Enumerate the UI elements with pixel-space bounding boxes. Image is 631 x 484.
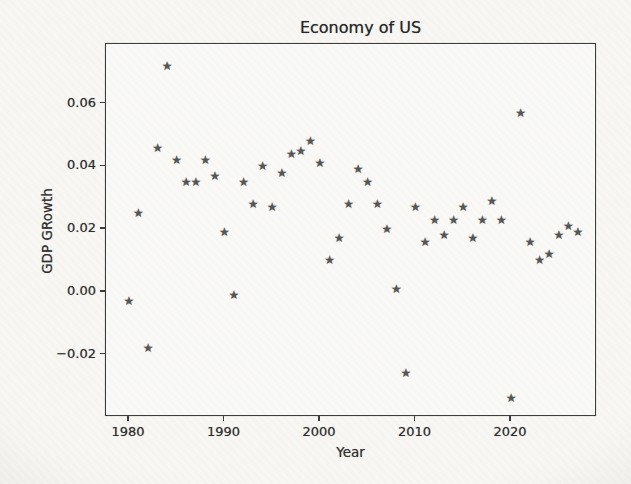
data-point-star: ★ [439, 229, 450, 241]
data-point-star: ★ [210, 170, 221, 182]
data-point-star: ★ [401, 367, 412, 379]
y-tick-label: 0.04 [34, 157, 96, 173]
data-point-star: ★ [420, 235, 431, 247]
data-point-star: ★ [143, 342, 154, 354]
data-point-star: ★ [334, 232, 345, 244]
data-point-star: ★ [362, 176, 373, 188]
x-axis-tick [509, 416, 511, 421]
data-point-star: ★ [496, 213, 507, 225]
data-point-star: ★ [248, 198, 259, 210]
data-point-star: ★ [152, 141, 163, 153]
plot-area: ★★★★★★★★★★★★★★★★★★★★★★★★★★★★★★★★★★★★★★★★… [105, 43, 596, 416]
data-point-star: ★ [200, 154, 211, 166]
y-axis-tick [100, 290, 105, 292]
x-tick-label: 1990 [201, 424, 245, 439]
x-axis-tick [318, 416, 320, 421]
x-tick-label: 2020 [488, 424, 532, 439]
y-tick-label: 0.00 [34, 283, 96, 299]
data-point-star: ★ [343, 198, 354, 210]
data-point-star: ★ [353, 163, 364, 175]
x-tick-label: 1980 [106, 424, 150, 439]
data-point-star: ★ [544, 248, 555, 260]
x-axis-tick [223, 416, 225, 421]
data-point-star: ★ [573, 226, 584, 238]
data-point-star: ★ [133, 207, 144, 219]
data-point-star: ★ [410, 201, 421, 213]
data-point-star: ★ [305, 135, 316, 147]
data-point-star: ★ [458, 201, 469, 213]
data-point-star: ★ [171, 154, 182, 166]
data-point-star: ★ [267, 201, 278, 213]
y-tick-label: 0.02 [34, 220, 96, 236]
data-point-star: ★ [276, 166, 287, 178]
x-tick-label: 2010 [393, 424, 437, 439]
x-axis-tick [127, 416, 129, 421]
scatter-figure: Economy of US GDP GRowth ★★★★★★★★★★★★★★★… [0, 0, 631, 484]
data-point-star: ★ [429, 213, 440, 225]
data-point-star: ★ [229, 289, 240, 301]
x-axis-tick [414, 416, 416, 421]
y-axis-tick [100, 227, 105, 229]
y-axis-tick [100, 353, 105, 355]
data-point-star: ★ [257, 160, 268, 172]
data-point-star: ★ [372, 198, 383, 210]
data-point-star: ★ [515, 107, 526, 119]
x-tick-label: 2000 [297, 424, 341, 439]
data-point-star: ★ [487, 195, 498, 207]
y-tick-label: 0.06 [34, 95, 96, 111]
x-axis-label: Year [105, 444, 596, 460]
data-point-star: ★ [381, 223, 392, 235]
data-point-star: ★ [124, 295, 135, 307]
data-point-star: ★ [448, 213, 459, 225]
y-axis-tick [100, 102, 105, 104]
data-point-star: ★ [391, 282, 402, 294]
data-point-star: ★ [315, 157, 326, 169]
data-point-star: ★ [467, 232, 478, 244]
data-point-star: ★ [506, 392, 517, 404]
data-point-star: ★ [219, 226, 230, 238]
chart-title: Economy of US [115, 18, 606, 37]
photographed-page-background: Economy of US GDP GRowth ★★★★★★★★★★★★★★★… [0, 0, 631, 484]
data-point-star: ★ [324, 254, 335, 266]
data-point-star: ★ [477, 213, 488, 225]
y-axis-tick [100, 165, 105, 167]
y-tick-label: −0.02 [34, 346, 96, 362]
data-point-star: ★ [190, 176, 201, 188]
data-point-star: ★ [162, 60, 173, 72]
data-point-star: ★ [525, 235, 536, 247]
data-point-star: ★ [238, 176, 249, 188]
